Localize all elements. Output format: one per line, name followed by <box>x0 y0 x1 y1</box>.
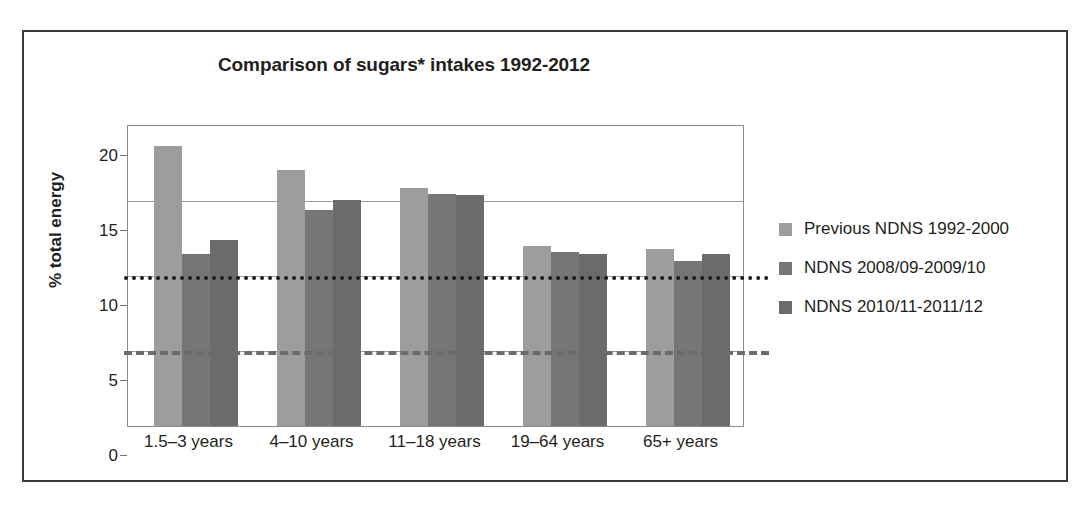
legend-label: NDNS 2010/11-2011/12 <box>804 297 983 317</box>
x-axis-tick-labels: 1.5–3 years4–10 years11–18 years19–64 ye… <box>127 432 742 462</box>
x-tick-label: 4–10 years <box>250 432 373 452</box>
x-tick-label: 11–18 years <box>373 432 496 452</box>
legend-item[interactable]: Previous NDNS 1992-2000 <box>779 220 1059 238</box>
y-tick-mark-0 <box>120 455 127 456</box>
bar[interactable] <box>154 146 182 427</box>
legend-swatch-icon <box>779 223 792 236</box>
figure-frame: Comparison of sugars* intakes 1992-2012 … <box>22 30 1068 482</box>
bar[interactable] <box>333 200 361 427</box>
y-tick-label-15: 15 <box>84 222 118 239</box>
x-tick-label: 19–64 years <box>496 432 619 452</box>
y-tick-mark-15 <box>120 230 127 231</box>
bar[interactable] <box>428 194 456 427</box>
bar[interactable] <box>210 240 238 426</box>
plot-area <box>127 125 744 427</box>
y-axis-title: % total energy <box>46 120 66 340</box>
y-tick-label-10: 10 <box>84 297 118 314</box>
reference-line-5-percent <box>124 351 769 355</box>
chart-title: Comparison of sugars* intakes 1992-2012 <box>24 54 784 76</box>
legend-label: NDNS 2008/09-2009/10 <box>804 258 985 278</box>
y-axis-tick-labels: 20 15 10 5 0 <box>80 32 118 484</box>
bar[interactable] <box>305 210 333 426</box>
bar[interactable] <box>674 261 702 426</box>
y-tick-label-5: 5 <box>84 372 118 389</box>
x-tick-label: 65+ years <box>619 432 742 452</box>
bar[interactable] <box>400 188 428 427</box>
legend-swatch-icon <box>779 262 792 275</box>
legend-item[interactable]: NDNS 2008/09-2009/10 <box>779 259 1059 277</box>
legend-swatch-icon <box>779 301 792 314</box>
y-tick-mark-10 <box>120 305 127 306</box>
bar[interactable] <box>456 195 484 426</box>
bar[interactable] <box>523 246 551 426</box>
bar[interactable] <box>277 170 305 427</box>
reference-line-10-percent <box>124 276 769 280</box>
y-tick-mark-20 <box>120 155 127 156</box>
y-tick-mark-5 <box>120 380 127 381</box>
chart-legend: Previous NDNS 1992-2000NDNS 2008/09-2009… <box>779 220 1059 337</box>
y-tick-label-20: 20 <box>84 147 118 164</box>
legend-label: Previous NDNS 1992-2000 <box>804 219 1009 239</box>
y-tick-label-0: 0 <box>84 447 118 464</box>
x-tick-label: 1.5–3 years <box>127 432 250 452</box>
legend-item[interactable]: NDNS 2010/11-2011/12 <box>779 298 1059 316</box>
